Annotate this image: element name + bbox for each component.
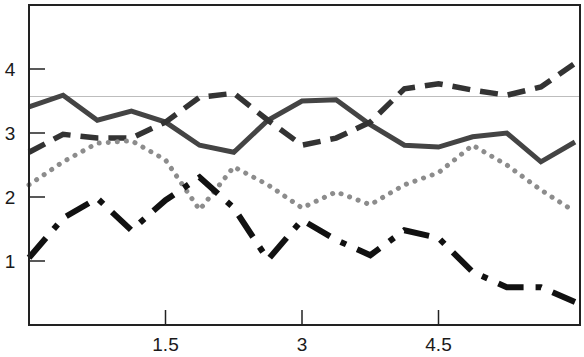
x-tick-label: 3 <box>297 334 308 355</box>
y-tick-label: 1 <box>5 251 16 272</box>
plot-frame <box>29 5 580 325</box>
series-dashed-line <box>29 63 575 152</box>
y-axis-ticks: 1234 <box>5 59 45 272</box>
y-tick-label: 2 <box>5 187 16 208</box>
series-dash-dot-line <box>29 177 575 302</box>
x-axis-ticks: 1.534.5 <box>152 310 451 355</box>
line-chart: 1234 1.534.5 <box>0 0 584 357</box>
x-tick-label: 4.5 <box>425 334 451 355</box>
axes <box>29 5 580 325</box>
series-dotted-line <box>29 141 575 212</box>
plot-series <box>29 63 575 302</box>
series-solid-line <box>29 95 575 162</box>
y-tick-label: 4 <box>5 59 16 80</box>
y-tick-label: 3 <box>5 123 16 144</box>
x-tick-label: 1.5 <box>152 334 178 355</box>
